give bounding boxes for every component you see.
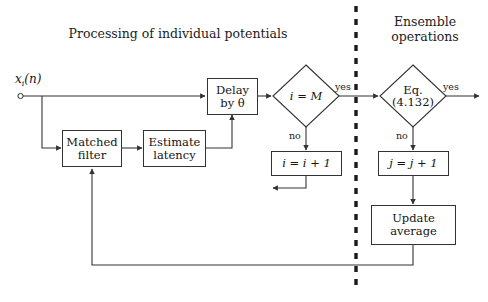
box-estimate-latency-text: Estimate latency — [149, 136, 201, 162]
box-delay[interactable]: Delay by θ — [207, 78, 258, 115]
box-matched-filter-line1: Matched — [66, 136, 117, 149]
left-section-title: Processing of individual potentials — [62, 27, 294, 41]
box-matched-filter[interactable]: Matched filter — [62, 130, 122, 167]
decision-i-equals-m[interactable]: i = M — [273, 65, 339, 127]
decision-i-equals-m-label: i = M — [273, 65, 339, 127]
decision-i-equals-m-line1: i = M — [290, 90, 322, 103]
box-update-average[interactable]: Update average — [371, 205, 456, 245]
box-update-average-line2: average — [390, 225, 437, 238]
input-signal-label: xi(n) — [15, 73, 41, 90]
box-increment-i[interactable]: i = i + 1 — [271, 151, 342, 176]
input-terminal-node — [18, 93, 23, 98]
decision-eq-4132[interactable]: Eq. (4.132) — [380, 65, 446, 127]
box-delay-line1: Delay — [216, 84, 249, 97]
box-increment-j[interactable]: j = j + 1 — [378, 151, 449, 176]
input-signal-argument: (n) — [24, 72, 41, 86]
box-update-average-text: Update average — [390, 212, 437, 238]
box-delay-text: Delay by θ — [216, 84, 249, 110]
decision-eq-4132-label: Eq. (4.132) — [380, 65, 446, 127]
input-signal-base: x — [15, 72, 22, 86]
wire-increment-i-loopback — [273, 176, 306, 188]
flowchart-diagram: Processing of individual potentials Ense… — [0, 0, 488, 302]
box-estimate-latency-line2: latency — [149, 149, 201, 162]
right-section-title-line1: Ensemble — [372, 14, 478, 29]
wire-estimate-latency-to-delay — [206, 115, 232, 148]
box-delay-line2: by θ — [216, 97, 249, 110]
decision-eq-4132-line2: (4.132) — [392, 96, 434, 109]
box-estimate-latency-line1: Estimate — [149, 136, 201, 149]
box-increment-i-label: i = i + 1 — [282, 157, 331, 170]
right-section-title-line2: operations — [372, 29, 478, 44]
box-matched-filter-text: Matched filter — [66, 136, 117, 162]
wire-update-average-feedback-to-matched-filter — [92, 169, 413, 265]
box-increment-j-label: j = j + 1 — [389, 157, 437, 170]
edge-label-no-left: no — [289, 131, 301, 141]
box-estimate-latency[interactable]: Estimate latency — [143, 130, 206, 167]
box-matched-filter-line2: filter — [66, 149, 117, 162]
wire-input-to-matched-filter — [42, 96, 61, 148]
edge-label-yes-right: yes — [443, 82, 459, 92]
edge-label-no-right: no — [396, 131, 408, 141]
edge-label-yes-left: yes — [335, 82, 351, 92]
